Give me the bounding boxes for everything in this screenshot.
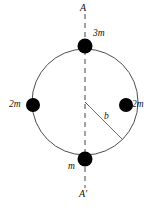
mass-label-bottom: m bbox=[68, 162, 75, 172]
axis-label-a-prime: A′ bbox=[79, 189, 87, 199]
mass-label-right: 2m bbox=[132, 100, 144, 110]
mass-marker-bottom bbox=[78, 152, 93, 167]
axis-label-a: A bbox=[80, 3, 86, 13]
mass-marker-left bbox=[26, 98, 40, 112]
mass-marker-right bbox=[119, 98, 133, 112]
mass-label-top: 3m bbox=[93, 29, 105, 39]
mass-label-left: 2m bbox=[9, 100, 21, 110]
mass-marker-top bbox=[78, 39, 93, 54]
physics-ring-figure: A A′ 3m 2m 2m m b bbox=[0, 0, 165, 207]
radius-label-b: b bbox=[104, 112, 109, 122]
